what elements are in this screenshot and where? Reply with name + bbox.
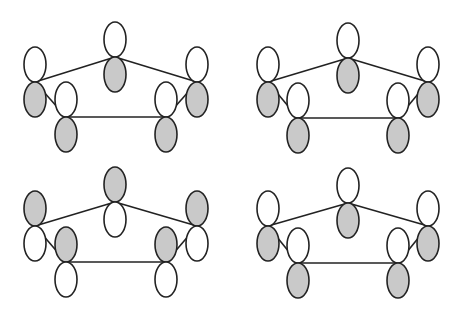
unshaded-lobe-top — [387, 83, 409, 118]
p-orbital-center — [104, 167, 126, 237]
shaded-lobe-bottom — [257, 82, 279, 117]
shaded-lobe-bottom — [55, 117, 77, 152]
shaded-lobe-top — [24, 191, 46, 226]
shaded-lobe-bottom — [417, 82, 439, 117]
unshaded-lobe-top — [24, 47, 46, 82]
p-orbital-left-outer — [257, 191, 279, 261]
bond-line — [115, 57, 197, 82]
shaded-lobe-bottom — [287, 263, 309, 298]
shaded-lobe-bottom — [104, 57, 126, 92]
bond-line — [35, 202, 115, 226]
bond-line — [348, 203, 428, 226]
p-orbital-center — [337, 23, 359, 93]
shaded-lobe-top — [155, 227, 177, 262]
unshaded-lobe-top — [417, 47, 439, 82]
shaded-lobe-bottom — [417, 226, 439, 261]
shaded-lobe-bottom — [155, 117, 177, 152]
shaded-lobe-bottom — [24, 82, 46, 117]
unshaded-lobe-bottom — [104, 202, 126, 237]
unshaded-lobe-top — [257, 191, 279, 226]
unshaded-lobe-bottom — [186, 226, 208, 261]
orbital-diagram-figure — [0, 0, 471, 316]
unshaded-lobe-top — [337, 23, 359, 58]
shaded-lobe-top — [104, 167, 126, 202]
unshaded-lobe-top — [337, 168, 359, 203]
unshaded-lobe-bottom — [155, 262, 177, 297]
p-orbital-center — [104, 22, 126, 92]
p-orbital-right-outer — [417, 47, 439, 117]
unshaded-lobe-bottom — [24, 226, 46, 261]
unshaded-lobe-top — [257, 47, 279, 82]
unshaded-lobe-top — [287, 83, 309, 118]
p-orbital-right-outer — [186, 47, 208, 117]
shaded-lobe-bottom — [387, 118, 409, 153]
bond-line — [268, 203, 348, 226]
p-orbital-center — [337, 168, 359, 238]
shaded-lobe-bottom — [337, 203, 359, 238]
p-orbital-right-outer — [417, 191, 439, 261]
panel-bottom-left — [24, 167, 208, 297]
p-orbital-left-outer — [24, 47, 46, 117]
shaded-lobe-bottom — [257, 226, 279, 261]
shaded-lobe-bottom — [387, 263, 409, 298]
shaded-lobe-bottom — [337, 58, 359, 93]
shaded-lobe-bottom — [287, 118, 309, 153]
shaded-lobe-bottom — [186, 82, 208, 117]
unshaded-lobe-top — [417, 191, 439, 226]
bond-line — [348, 58, 428, 82]
shaded-lobe-top — [186, 191, 208, 226]
shaded-lobe-top — [55, 227, 77, 262]
bond-line — [35, 57, 115, 82]
unshaded-lobe-top — [387, 228, 409, 263]
panel-bottom-right — [257, 168, 439, 298]
bond-line — [268, 58, 348, 82]
p-orbital-left-outer — [257, 47, 279, 117]
p-orbital-left-outer — [24, 191, 46, 261]
panel-top-right — [257, 23, 439, 153]
unshaded-lobe-bottom — [55, 262, 77, 297]
panel-top-left — [24, 22, 208, 152]
bond-line — [115, 202, 197, 226]
unshaded-lobe-top — [155, 82, 177, 117]
unshaded-lobe-top — [104, 22, 126, 57]
unshaded-lobe-top — [186, 47, 208, 82]
unshaded-lobe-top — [55, 82, 77, 117]
unshaded-lobe-top — [287, 228, 309, 263]
p-orbital-right-outer — [186, 191, 208, 261]
